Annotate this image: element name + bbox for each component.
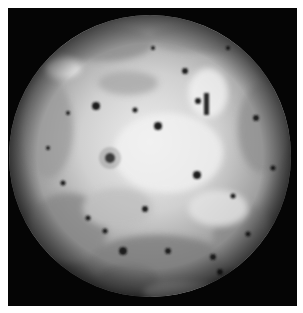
io-moon-image <box>8 8 297 306</box>
surface-features <box>9 15 291 303</box>
photo-frame <box>8 8 297 306</box>
